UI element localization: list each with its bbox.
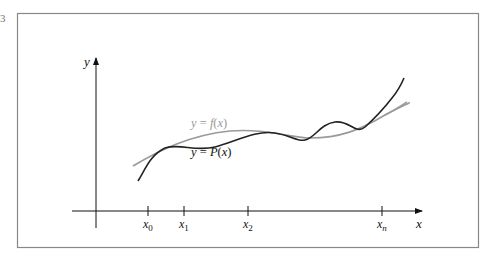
- svg-text:xn: xn: [376, 217, 387, 233]
- tick-x2: x2: [242, 206, 253, 233]
- svg-text:x1: x1: [178, 217, 189, 233]
- svg-text:x0: x0: [142, 217, 153, 233]
- tick-xn: xn: [376, 206, 387, 233]
- tick-x1: x1: [178, 206, 189, 233]
- curve-P: [138, 78, 404, 181]
- svg-text:x2: x2: [242, 217, 253, 233]
- tick-x0: x0: [142, 206, 153, 233]
- x-axis-label: x: [415, 216, 422, 231]
- interpolation-figure: y x x0 x1 x2 xn y = f(x) y = P(x): [0, 0, 493, 261]
- curve-f: [133, 103, 409, 166]
- label-P: y = P(x): [189, 145, 231, 159]
- label-f: y = f(x): [189, 116, 227, 130]
- y-axis-label: y: [82, 54, 90, 69]
